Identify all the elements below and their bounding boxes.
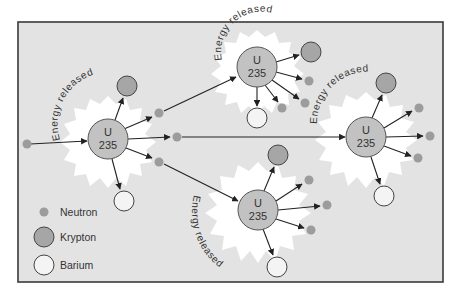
uranium-mass: 235	[357, 137, 375, 149]
incoming-neutron	[23, 140, 32, 149]
neutron	[415, 104, 424, 113]
legend-barium-label: Barium	[60, 259, 94, 271]
neutron	[307, 226, 316, 235]
uranium-symbol: U	[104, 126, 112, 138]
krypton-atom	[268, 145, 288, 165]
legend-neutron-label: Neutron	[60, 206, 98, 218]
uranium-symbol: U	[253, 54, 261, 66]
krypton-atom	[117, 76, 137, 96]
neutron	[301, 99, 310, 108]
krypton-atom	[301, 42, 321, 62]
barium-atom	[247, 108, 267, 128]
uranium-mass: 235	[99, 139, 117, 151]
fission-diagram: Energy released Energy released Energy r…	[0, 0, 455, 295]
barium-atom	[114, 191, 134, 211]
barium-atom	[267, 257, 287, 277]
uranium-mass: 235	[248, 67, 266, 79]
neutron	[155, 158, 164, 167]
neutron	[323, 201, 332, 210]
uranium-symbol: U	[362, 124, 370, 136]
barium-atom	[374, 186, 394, 206]
legend-krypton-icon	[34, 227, 54, 247]
neutron	[155, 109, 164, 118]
neutron	[278, 104, 287, 113]
legend-neutron-icon	[40, 208, 49, 217]
uranium-mass: 235	[249, 210, 267, 222]
legend-krypton-label: Krypton	[60, 231, 96, 243]
neutron	[173, 133, 182, 142]
uranium-symbol: U	[254, 197, 262, 209]
legend: Neutron Krypton Barium	[34, 206, 98, 275]
neutron	[414, 154, 423, 163]
neutron	[426, 132, 435, 141]
legend-barium-icon	[34, 255, 54, 275]
neutron	[305, 77, 314, 86]
neutron	[305, 176, 314, 185]
krypton-atom	[376, 73, 396, 93]
